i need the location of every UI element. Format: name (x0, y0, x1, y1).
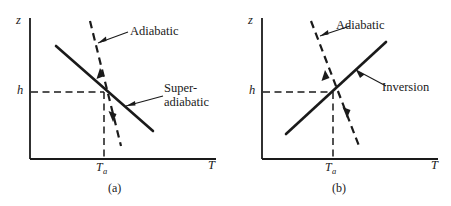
panel-b-caption: (b) (332, 182, 346, 194)
panel-b-x-tick-base: T (325, 160, 332, 174)
panel-a-x-axis-label: T (208, 159, 215, 172)
parcel-arrow-up-icon (322, 70, 330, 81)
panel-a-x-tick-label: Ta (96, 161, 107, 173)
adiabatic-leader-arrow-icon (320, 30, 329, 36)
panel-b-y-axis-label: z (248, 14, 253, 27)
parcel-arrow-down-icon (343, 107, 351, 118)
panel-a-y-tick-label: h (17, 84, 23, 97)
dashed-adiabatic-line (311, 21, 359, 146)
panel-a-caption: (a) (108, 182, 121, 194)
solid-inversion-line (286, 42, 386, 134)
inversion-leader-arrow-icon (356, 70, 365, 78)
panel-a-x-tick-sub: a (103, 166, 107, 176)
panel-b-x-tick-sub: a (332, 166, 336, 176)
panel-b-annotation-adiabatic: Adiabatic (336, 19, 385, 32)
panel-b-y-tick-label: h (249, 84, 255, 97)
panel-a: z T h Ta Adiabatic Super- adiabatic (a) (0, 0, 226, 206)
panel-b-x-axis-label: T (431, 159, 438, 172)
panel-b-x-tick-label: Ta (325, 161, 336, 173)
panel-a-annotation-superadiabatic: Super- adiabatic (164, 81, 209, 109)
superadiabatic-leader-arrow-icon (126, 101, 136, 106)
panel-a-annotation-adiabatic: Adiabatic (130, 25, 179, 38)
figure-container: z T h Ta Adiabatic Super- adiabatic (a) (0, 0, 451, 206)
panel-b: z T h Ta Adiabatic Inversion (b) (226, 0, 451, 206)
panel-b-annotation-inversion: Inversion (382, 81, 429, 94)
panel-a-y-axis-label: z (16, 14, 21, 27)
panel-a-x-tick-base: T (96, 160, 103, 174)
panel-a-annotation-superadiabatic-line1: Super- (164, 81, 209, 95)
panel-a-annotation-superadiabatic-line2: adiabatic (164, 95, 209, 109)
